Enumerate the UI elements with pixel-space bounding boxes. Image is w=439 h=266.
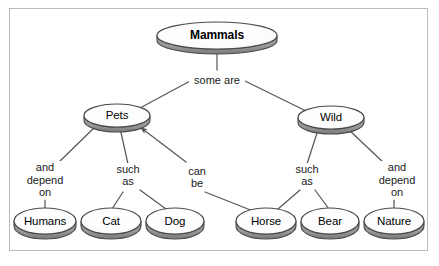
node-cat[interactable]: Cat xyxy=(79,206,143,241)
link-label-such-as-right: such as xyxy=(287,163,327,188)
node-nature[interactable]: Nature xyxy=(362,206,426,241)
concept-map-canvas: MammalsPetsWildHumansCatDogHorseBearNatu… xyxy=(0,0,439,266)
link-label-can-be: can be xyxy=(179,165,215,190)
node-label-mammals: Mammals xyxy=(155,20,279,51)
node-label-nature: Nature xyxy=(362,206,426,236)
node-wild[interactable]: Wild xyxy=(296,104,366,136)
node-label-dog: Dog xyxy=(144,206,206,236)
node-label-pets: Pets xyxy=(82,102,152,129)
node-bear[interactable]: Bear xyxy=(299,206,361,241)
node-dog[interactable]: Dog xyxy=(144,206,206,241)
link-label-and-depend-on-right: and depend on xyxy=(370,161,424,198)
node-label-cat: Cat xyxy=(79,206,143,236)
link-label-and-depend-on-left: and depend on xyxy=(18,161,72,198)
node-label-horse: Horse xyxy=(234,206,298,236)
node-label-humans: Humans xyxy=(12,206,78,236)
node-label-wild: Wild xyxy=(296,104,366,131)
link-label-such-as-left: such as xyxy=(108,163,148,188)
node-label-bear: Bear xyxy=(299,206,361,236)
node-mammals[interactable]: Mammals xyxy=(155,20,279,56)
node-humans[interactable]: Humans xyxy=(12,206,78,241)
node-horse[interactable]: Horse xyxy=(234,206,298,241)
node-pets[interactable]: Pets xyxy=(82,102,152,134)
link-label-some-are: some are xyxy=(189,74,245,86)
